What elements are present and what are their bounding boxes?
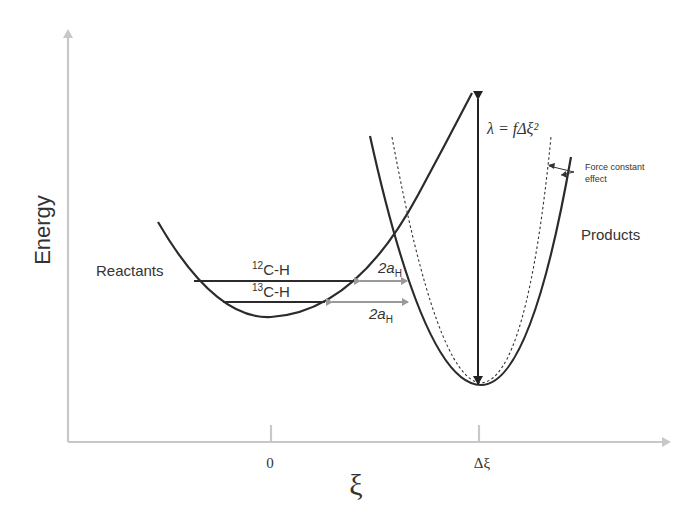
reactants-label: Reactants <box>96 262 164 279</box>
x-tick-label-zero: 0 <box>266 455 274 471</box>
x-tick-label-delta: Δξ <box>474 455 491 471</box>
displacement-label-lower-main: 2a <box>368 305 386 322</box>
displacement-label-lower: 2aH <box>368 305 393 325</box>
products-label: Products <box>581 226 640 243</box>
c13-label: 13C-H <box>252 282 290 300</box>
displacement-label-upper-main: 2a <box>377 259 395 276</box>
force-constant-label-line1: Force constant <box>585 162 645 172</box>
c13-superscript: 13 <box>252 282 264 293</box>
product-curve-dashed <box>392 137 551 383</box>
reorganization-label: λ = fΔξ² <box>486 120 539 138</box>
c12-label: 12C-H <box>252 260 290 278</box>
force-constant-label-line2: effect <box>585 174 607 184</box>
displacement-label-upper-sub: H <box>395 268 402 279</box>
y-axis-label: Energy <box>30 195 55 265</box>
displacement-label-upper: 2aH <box>377 259 402 279</box>
c13-text: C-H <box>263 283 290 300</box>
displacement-label-lower-sub: H <box>386 314 393 325</box>
product-curve <box>370 136 571 385</box>
x-axis-label: ξ <box>349 468 362 501</box>
c12-text: C-H <box>263 261 290 278</box>
energy-diagram: Energy 0 Δξ ξ Reactants Products 12C-H 1… <box>0 0 698 527</box>
c12-superscript: 12 <box>252 260 264 271</box>
force-constant-arrowhead-2 <box>561 171 567 178</box>
